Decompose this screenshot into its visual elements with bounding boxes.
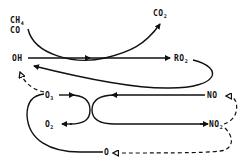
node-co2: CO2 xyxy=(153,9,167,21)
ro2-sub: 2 xyxy=(185,58,189,64)
node-oh: OH xyxy=(12,54,23,63)
co-text: CO xyxy=(10,26,21,35)
reaction-diagram xyxy=(0,0,252,168)
node-ro2: RO2 xyxy=(174,54,188,66)
ch4-sub: 4 xyxy=(21,20,25,26)
node-no: NO xyxy=(207,91,218,100)
edge-o3-to-oh-dashed xyxy=(20,72,44,92)
o3-sub: 3 xyxy=(50,95,54,101)
no-text: NO xyxy=(207,91,218,100)
node-o3: O3 xyxy=(45,91,54,103)
ch4-text: CH xyxy=(10,16,21,25)
edge-o-to-o3 xyxy=(27,94,103,152)
node-co: CO xyxy=(10,26,21,35)
ro2-text: RO xyxy=(174,54,185,63)
node-o2: O2 xyxy=(45,120,54,132)
no2-sub: 2 xyxy=(220,124,224,130)
node-o: O xyxy=(104,148,109,157)
oh-text: OH xyxy=(12,54,23,63)
edge-co-to-co2 xyxy=(28,24,160,60)
node-no2: NO2 xyxy=(209,120,223,132)
no2-text: NO xyxy=(209,120,220,129)
o-text: O xyxy=(104,148,109,157)
co2-sub: 2 xyxy=(164,13,168,19)
co2-text: CO xyxy=(153,9,164,18)
o2-sub: 2 xyxy=(50,124,54,130)
edge-no2-to-no-dashed xyxy=(224,96,237,124)
